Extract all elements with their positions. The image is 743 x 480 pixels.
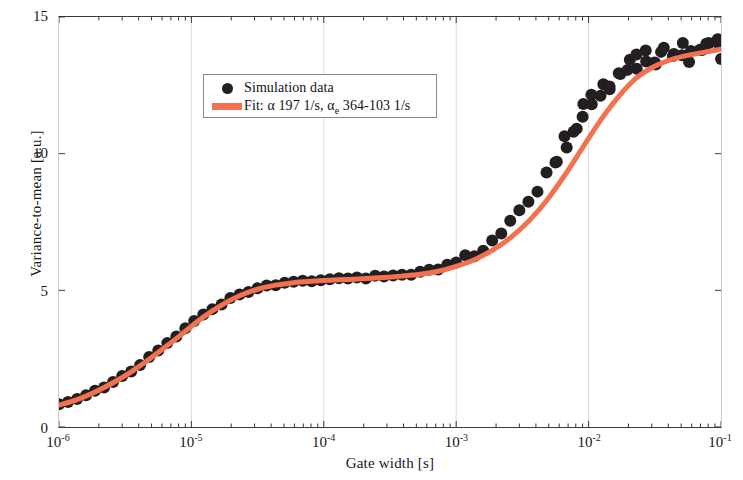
- legend-label-fit: Fit: α 197 1/s, αe 364-103 1/s: [244, 98, 410, 114]
- x-tick-label-1e-2: 10-2: [578, 434, 601, 451]
- legend-fit-head: Fit: α 197 1/s, α: [244, 98, 335, 113]
- x-tick-mantissa: 10: [46, 434, 61, 450]
- x-tick-exponent: -4: [327, 432, 335, 443]
- x-tick-mantissa: 10: [179, 434, 194, 450]
- legend-marker-dot-icon: [210, 83, 244, 94]
- y-tick-label-5: 5: [4, 282, 48, 299]
- x-tick-mantissa: 10: [312, 434, 327, 450]
- x-tick-mantissa: 10: [708, 434, 723, 450]
- x-tick-label-1e-3: 10-3: [445, 434, 468, 451]
- x-tick-label-1e-6: 10-6: [46, 434, 69, 451]
- legend-fit-tail: 364-103 1/s: [339, 98, 410, 113]
- legend-entry-fit: Fit: α 197 1/s, αe 364-103 1/s: [210, 97, 430, 115]
- legend-line-swatch-icon: [210, 103, 244, 110]
- x-tick-label-1e-5: 10-5: [179, 434, 202, 451]
- legend-box: Simulation data Fit: α 197 1/s, αe 364-1…: [203, 74, 437, 118]
- x-tick-exponent: -5: [194, 432, 202, 443]
- x-tick-exponent: -1: [723, 432, 731, 443]
- y-tick-label-10: 10: [4, 145, 48, 162]
- x-tick-exponent: -3: [460, 432, 468, 443]
- x-tick-mantissa: 10: [445, 434, 460, 450]
- legend-entry-simulation-data: Simulation data: [210, 79, 430, 97]
- x-tick-label-1e-1: 10-1: [708, 434, 731, 451]
- x-tick-mantissa: 10: [578, 434, 593, 450]
- x-tick-exponent: -2: [593, 432, 601, 443]
- legend-label-simulation-data: Simulation data: [244, 80, 334, 96]
- x-tick-label-1e-4: 10-4: [312, 434, 335, 451]
- y-tick-label-0: 0: [4, 420, 48, 437]
- x-axis-label: Gate width [s]: [58, 455, 722, 472]
- x-tick-exponent: -6: [61, 432, 69, 443]
- figure-canvas: Variance-to-mean [a.u.] 0 5 10 15 10-6 1…: [0, 0, 743, 480]
- y-tick-label-15: 15: [4, 8, 48, 25]
